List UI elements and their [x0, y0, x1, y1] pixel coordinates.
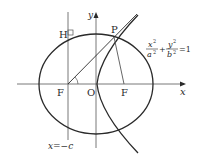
- label-directrix: x=−c: [48, 141, 73, 151]
- eq-rhs: =1: [179, 45, 191, 54]
- label-x-axis: x: [180, 86, 186, 97]
- eq-plus: +: [159, 45, 166, 54]
- label-origin: O: [87, 87, 95, 98]
- label-P: P: [111, 24, 118, 35]
- eq-y-num-exp: 2: [173, 38, 176, 44]
- eq-x-den-exp: 2: [153, 49, 156, 55]
- label-focus-right: F: [121, 87, 128, 98]
- eq-y-den: b: [167, 50, 172, 59]
- ellipse-diagram: H P F O F x y x=−c x 2 a 2 + y 2 b 2 =1: [0, 0, 205, 164]
- y-axis-arrow-icon: [94, 12, 99, 18]
- label-focus-left: F: [57, 87, 64, 98]
- angle-arc-icon: [75, 77, 78, 84]
- eq-x-den: a: [147, 50, 152, 59]
- eq-x-num-exp: 2: [153, 38, 156, 44]
- line-PF: [114, 37, 124, 84]
- eq-y-den-exp: 2: [173, 49, 176, 55]
- ellipse-equation: x 2 a 2 + y 2 b 2 =1: [146, 38, 191, 59]
- right-angle-mark-icon: [68, 30, 73, 35]
- line-FP: [68, 14, 137, 84]
- label-y-axis: y: [87, 10, 94, 20]
- label-H: H: [59, 29, 68, 40]
